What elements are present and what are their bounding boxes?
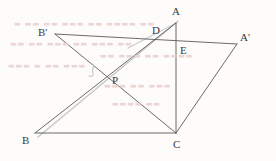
watermark-row-1: ▬ ▬▬ ▬▬ ▬▬▬ ▬▬ ▬▬▬▬ ▬▬ (14, 20, 155, 28)
vertex-label-a: A (172, 6, 180, 17)
vertex-label-b: B (22, 135, 29, 146)
geometry-figure: ▬ ▬▬ ▬▬ ▬▬▬ ▬▬ ▬▬▬▬ ▬▬ ▬▬ ▬▬ ▬▬▬ ▬▬ ▬▬▬ … (0, 0, 276, 161)
faint-stroke-group (38, 21, 178, 137)
watermark-row-2: ▬▬ ▬▬ ▬▬▬ ▬▬ ▬▬▬ ▬▬ (10, 40, 133, 48)
vertex-label-d: D (152, 25, 160, 36)
vertex-label-c: C (173, 139, 180, 150)
watermark-row-3: ▬▬▬ ▬ ▬▬ ▬▬▬ (8, 62, 86, 70)
vertex-label-b-prime: B' (38, 27, 47, 38)
vertex-label-p: P (112, 75, 118, 86)
stray-mark-near-p-icon (89, 64, 94, 76)
faint-line-b-a-shadow (38, 21, 178, 137)
watermark-row-6: ▬▬▬▬ ▬▬ (112, 100, 161, 108)
vertex-label-a-prime: A' (240, 32, 250, 43)
vertex-label-e: E (180, 45, 187, 56)
